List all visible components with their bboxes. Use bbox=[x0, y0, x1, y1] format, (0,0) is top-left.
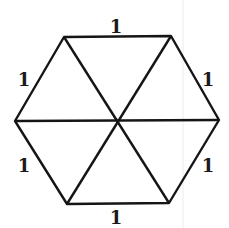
edge-label-lower-right: 1 bbox=[202, 155, 215, 176]
edge-label-lower-left: 1 bbox=[18, 155, 31, 176]
hexagon-diagram: 1 1 1 1 1 1 bbox=[0, 0, 229, 228]
edge-label-upper-left: 1 bbox=[18, 69, 31, 90]
edge-label-bottom: 1 bbox=[110, 207, 123, 228]
edge-label-top: 1 bbox=[110, 16, 123, 37]
edge-label-upper-right: 1 bbox=[202, 69, 215, 90]
